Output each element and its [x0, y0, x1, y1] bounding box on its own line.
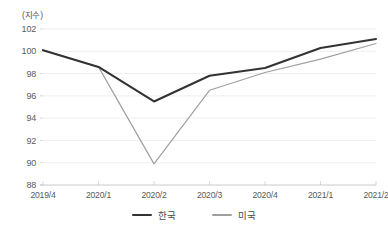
- legend-swatch-korea: [132, 214, 152, 217]
- x-axis-tick-labels: 2019/42020/12020/22020/32020/42021/12021…: [30, 190, 388, 200]
- x-axis-tickmarks: [43, 181, 376, 185]
- y-tick-label: 102: [22, 24, 37, 34]
- y-tick-label: 96: [26, 91, 36, 101]
- x-tick-label: 2020/1: [86, 190, 112, 200]
- chart-legend: 한국 미국: [0, 208, 388, 222]
- x-tick-label: 2019/4: [30, 190, 56, 200]
- chart-plot-area: 889092949698100102 2019/42020/12020/2202…: [0, 0, 388, 237]
- legend-swatch-usa: [212, 214, 232, 216]
- y-tick-label: 90: [26, 158, 36, 168]
- data-series-group: [43, 39, 376, 164]
- legend-item-usa[interactable]: 미국: [212, 208, 256, 222]
- x-tick-label: 2020/4: [252, 190, 278, 200]
- x-tick-label: 2021/2: [363, 190, 388, 200]
- x-tick-label: 2021/1: [308, 190, 334, 200]
- y-tick-label: 100: [22, 46, 37, 56]
- y-tick-label: 94: [26, 113, 36, 123]
- line-chart: (지수) 889092949698100102 2019/42020/12020…: [0, 0, 388, 237]
- legend-label-korea: 한국: [158, 208, 176, 222]
- y-axis-tick-labels: 889092949698100102: [22, 24, 37, 190]
- y-tick-label: 92: [26, 136, 36, 146]
- series-line-korea: [43, 39, 376, 101]
- x-tick-label: 2020/2: [141, 190, 167, 200]
- y-tick-label: 98: [26, 69, 36, 79]
- legend-label-usa: 미국: [238, 208, 256, 222]
- legend-item-korea[interactable]: 한국: [132, 208, 176, 222]
- x-tick-label: 2020/3: [197, 190, 223, 200]
- series-line-usa: [43, 43, 376, 163]
- y-tick-label: 88: [26, 180, 36, 190]
- gridlines-group: [40, 29, 376, 185]
